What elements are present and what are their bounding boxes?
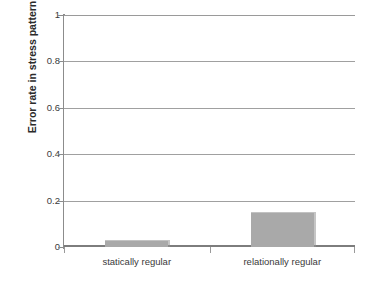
bar-relationally-regular [251,212,314,247]
x-category-label: relationally regular [210,256,356,268]
gridline-0.2 [64,201,355,202]
bar-chart: Error rate in stress pattern 00.20.40.60… [0,0,370,281]
y-tickmark-0.6 [58,108,64,109]
x-category-label: statically regular [64,256,210,268]
y-tick-label: 0 [34,242,60,252]
y-tickmark-0 [58,247,64,248]
bar-statically-regular [105,240,168,247]
gridline-0.6 [64,108,355,109]
y-tick-label: 0.2 [34,196,60,206]
y-tick-label: 0.6 [34,103,60,113]
y-tick-label: 0.4 [34,149,60,159]
y-tick-label: 1 [34,10,60,20]
x-tickmark [354,247,355,253]
x-tickmark [210,247,211,253]
y-tickmark-0.4 [58,154,64,155]
y-axis-ticks: 00.20.40.60.81 [30,0,60,281]
x-tickmark [64,247,65,253]
y-tickmark-0.8 [58,61,64,62]
plot-area [64,15,355,247]
y-tickmark-0.2 [58,201,64,202]
y-tickmark-1 [58,15,64,16]
gridline-0.8 [64,61,355,62]
gridline-0.4 [64,154,355,155]
gridline-1 [64,15,355,16]
y-tick-label: 0.8 [34,56,60,66]
